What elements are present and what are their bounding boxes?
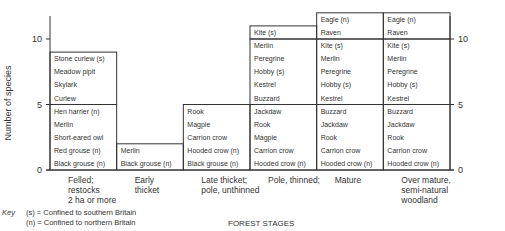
species-label: Eagle (n) — [387, 16, 415, 24]
species-label: Buzzard — [387, 108, 413, 115]
species-label: Kestrel — [254, 81, 276, 88]
species-label: Buzzard — [254, 95, 280, 102]
species-label: Merlin — [54, 121, 73, 128]
species-label: Hooded crow (n) — [387, 160, 439, 168]
species-label: Carrion crow — [254, 147, 295, 154]
category-label: woodland — [400, 195, 438, 205]
species-label: Hen harrier (n) — [54, 108, 100, 116]
species-label: Raven — [321, 29, 341, 36]
category-label: thicket — [135, 185, 160, 195]
species-label: Black grouse (n) — [121, 160, 172, 168]
species-label: Merlin — [254, 42, 273, 49]
species-label: Rook — [387, 134, 404, 141]
category-label: Over mature, — [401, 175, 451, 185]
species-label: Skylark — [54, 81, 77, 89]
species-label: Rook — [321, 134, 338, 141]
species-label: Hobby (s) — [254, 68, 284, 76]
species-label: Carrion crow — [187, 134, 228, 141]
species-label: Hooded crow (n) — [187, 147, 239, 155]
species-label: Kestrel — [387, 95, 409, 102]
species-label: Black grouse (n) — [54, 160, 105, 168]
category-label: Mature — [335, 175, 362, 185]
species-label: Jackdaw — [254, 108, 282, 115]
y-axis-label: Number of species — [3, 65, 13, 141]
species-label: Meadow pipit — [54, 68, 95, 76]
y-tick-label-left: 10 — [32, 34, 42, 44]
species-label: Hooded crow (n) — [321, 160, 373, 168]
species-label: Raven — [387, 29, 407, 36]
species-label: Merlin — [121, 147, 140, 154]
species-label: Jackdaw — [387, 121, 415, 128]
species-label: Jackdaw — [321, 121, 349, 128]
species-label: Black grouse (n) — [187, 160, 238, 168]
species-label: Curlew — [54, 95, 77, 102]
species-label: Peregrine — [387, 68, 417, 76]
species-label: Eagle (n) — [321, 16, 349, 24]
category-label: Felled; — [68, 175, 94, 185]
species-label: Kite (s) — [254, 29, 276, 37]
y-tick-label-left: 0 — [37, 165, 42, 175]
species-label: Carrion crow — [321, 147, 362, 154]
x-axis-label: FOREST STAGES — [228, 219, 294, 228]
category-label: Early — [135, 175, 155, 185]
category-labels: Felled;restocks2 ha or moreEarlythicketL… — [68, 175, 451, 205]
y-tick-label-left: 5 — [37, 100, 42, 110]
key-label: Key — [2, 208, 16, 217]
species-label: Buzzard — [321, 108, 347, 115]
category-label: pole, unthinned — [201, 185, 259, 195]
species-label: Carrion crow — [387, 147, 428, 154]
category-label: Pole, thinned; — [268, 175, 320, 185]
species-blocks: Black grouse (n)Red grouse (n)Short-eare… — [50, 13, 450, 170]
category-label: restocks — [68, 185, 100, 195]
y-tick-label-right: 5 — [458, 100, 463, 110]
category-label: Late thicket; — [201, 175, 247, 185]
species-label: Rook — [254, 121, 271, 128]
species-label: Magpie — [187, 121, 210, 129]
species-label: Peregrine — [321, 68, 351, 76]
species-label: Kite (s) — [387, 42, 409, 50]
species-label: Peregrine — [254, 55, 284, 63]
forest-stages-chart: 00551010 Black grouse (n)Red grouse (n)S… — [0, 0, 505, 231]
species-label: Kite (s) — [321, 42, 343, 50]
species-label: Merlin — [387, 55, 406, 62]
species-label: Magpie — [254, 134, 277, 142]
y-tick-label-right: 10 — [458, 34, 468, 44]
category-label: semi-natural — [401, 185, 448, 195]
species-label: Kestrel — [321, 95, 343, 102]
species-label: Short-eared owl — [54, 134, 104, 141]
species-label: Stone curlew (s) — [54, 55, 105, 63]
category-label: 2 ha or more — [68, 195, 116, 205]
y-tick-label-right: 0 — [458, 165, 463, 175]
species-label: Hobby (s) — [387, 81, 417, 89]
key-entry-southern: (s) = Confined to southern Britain — [26, 208, 136, 217]
key-entry-northern: (n) = Confined to northern Britain — [26, 218, 135, 227]
species-label: Rook — [187, 108, 204, 115]
species-label: Merlin — [321, 55, 340, 62]
species-label: Hobby (s) — [321, 81, 351, 89]
species-label: Hooded crow (n) — [254, 160, 306, 168]
species-label: Red grouse (n) — [54, 147, 101, 155]
